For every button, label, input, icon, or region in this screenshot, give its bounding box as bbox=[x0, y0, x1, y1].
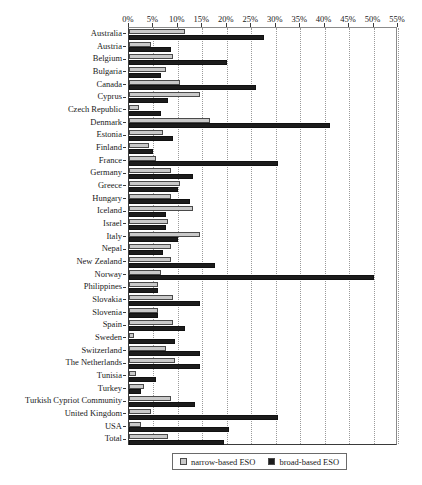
y-axis-tick-mark bbox=[123, 71, 126, 72]
bar-narrow-based-eso bbox=[129, 333, 134, 338]
bar-row bbox=[129, 395, 396, 408]
bar-narrow-based-eso bbox=[129, 346, 166, 351]
bar-row bbox=[129, 332, 396, 345]
y-axis-tick-mark bbox=[123, 46, 126, 47]
y-axis-tick-mark bbox=[123, 185, 126, 186]
bar-narrow-based-eso bbox=[129, 29, 185, 34]
bar-broad-based-eso bbox=[129, 187, 178, 192]
y-axis-label-nepal: Nepal bbox=[102, 243, 122, 253]
y-axis-label-new-zealand: New Zealand bbox=[76, 256, 122, 266]
bar-row bbox=[129, 243, 396, 256]
y-axis-label-bulgaria: Bulgaria bbox=[93, 66, 122, 76]
y-axis-tick-mark bbox=[123, 59, 126, 60]
bar-broad-based-eso bbox=[129, 339, 175, 344]
y-axis-tick-mark bbox=[123, 135, 126, 136]
y-axis-label-finland: Finland bbox=[96, 142, 122, 152]
bar-row bbox=[129, 180, 396, 193]
bar-row bbox=[129, 129, 396, 142]
bar-narrow-based-eso bbox=[129, 92, 200, 97]
y-axis-tick-mark bbox=[123, 363, 126, 364]
bar-row bbox=[129, 193, 396, 206]
gridline bbox=[398, 28, 399, 444]
y-axis-tick-mark bbox=[123, 147, 126, 148]
y-axis-tick-mark bbox=[123, 299, 126, 300]
y-axis-tick-mark bbox=[123, 274, 126, 275]
y-axis-tick-mark bbox=[123, 312, 126, 313]
y-axis-label-turkey: Turkey bbox=[98, 383, 122, 393]
bar-row bbox=[129, 231, 396, 244]
bar-broad-based-eso bbox=[129, 389, 141, 394]
bar-broad-based-eso bbox=[129, 98, 168, 103]
y-axis-tick-mark bbox=[123, 223, 126, 224]
y-axis-label-italy: Italy bbox=[106, 231, 122, 241]
x-axis-tick-mark bbox=[397, 23, 398, 27]
y-axis-label-hungary: Hungary bbox=[92, 193, 122, 203]
bar-row bbox=[129, 205, 396, 218]
bar-broad-based-eso bbox=[129, 73, 161, 78]
bar-row bbox=[129, 142, 396, 155]
bar-row bbox=[129, 383, 396, 396]
y-axis-label-iceland: Iceland bbox=[97, 205, 122, 215]
bar-broad-based-eso bbox=[129, 415, 278, 420]
y-axis-label-the-netherlands: The Netherlands bbox=[66, 357, 122, 367]
y-axis-label-tunisia: Tunisia bbox=[97, 370, 122, 380]
bar-row bbox=[129, 117, 396, 130]
y-axis-tick-mark bbox=[123, 211, 126, 212]
y-axis-label-belgium: Belgium bbox=[93, 53, 122, 63]
bar-row bbox=[129, 408, 396, 421]
bar-broad-based-eso bbox=[129, 313, 158, 318]
y-axis-tick-mark bbox=[123, 413, 126, 414]
bar-broad-based-eso bbox=[129, 275, 374, 280]
bar-narrow-based-eso bbox=[129, 308, 158, 313]
y-axis-label-canada: Canada bbox=[97, 79, 123, 89]
bar-narrow-based-eso bbox=[129, 396, 171, 401]
bar-narrow-based-eso bbox=[129, 358, 175, 363]
bar-broad-based-eso bbox=[129, 364, 200, 369]
bar-row bbox=[129, 28, 396, 41]
bar-broad-based-eso bbox=[129, 326, 185, 331]
bar-row bbox=[129, 66, 396, 79]
bar-narrow-based-eso bbox=[129, 130, 163, 135]
bar-narrow-based-eso bbox=[129, 54, 173, 59]
bar-broad-based-eso bbox=[129, 60, 227, 65]
y-axis-label-israel: Israel bbox=[103, 218, 122, 228]
y-axis-tick-mark bbox=[123, 109, 126, 110]
bar-narrow-based-eso bbox=[129, 67, 166, 72]
bar-row bbox=[129, 319, 396, 332]
bar-narrow-based-eso bbox=[129, 194, 171, 199]
plot-area bbox=[128, 27, 397, 445]
bar-row bbox=[129, 345, 396, 358]
bar-narrow-based-eso bbox=[129, 181, 180, 186]
bar-row bbox=[129, 41, 396, 54]
y-axis-tick-mark bbox=[123, 84, 126, 85]
y-axis-label-switzerland: Switzerland bbox=[81, 345, 122, 355]
y-axis-tick-mark bbox=[123, 249, 126, 250]
y-axis-label-france: France bbox=[99, 155, 122, 165]
bar-narrow-based-eso bbox=[129, 384, 144, 389]
y-axis-tick-mark bbox=[123, 350, 126, 351]
bar-chart: 0%5%10%15%20%25%30%35%40%45%50%55% Austr… bbox=[0, 0, 422, 485]
y-axis-label-usa: USA bbox=[105, 421, 122, 431]
bar-broad-based-eso bbox=[129, 250, 163, 255]
bar-narrow-based-eso bbox=[129, 434, 168, 439]
bar-broad-based-eso bbox=[129, 402, 195, 407]
bar-broad-based-eso bbox=[129, 47, 171, 52]
y-axis-tick-mark bbox=[123, 236, 126, 237]
y-axis-tick-mark bbox=[123, 198, 126, 199]
bar-row bbox=[129, 357, 396, 370]
bar-narrow-based-eso bbox=[129, 371, 136, 376]
y-axis-tick-mark bbox=[123, 287, 126, 288]
y-axis-label-total: Total bbox=[105, 433, 122, 443]
y-axis-tick-mark bbox=[123, 337, 126, 338]
bar-row bbox=[129, 53, 396, 66]
bar-broad-based-eso bbox=[129, 263, 215, 268]
bar-narrow-based-eso bbox=[129, 282, 158, 287]
bar-row bbox=[129, 104, 396, 117]
bar-broad-based-eso bbox=[129, 199, 190, 204]
y-axis-label-cyprus: Cyprus bbox=[97, 91, 122, 101]
y-axis-label-turkish-cypriot-community: Turkish Cypriot Community bbox=[25, 395, 122, 405]
bar-broad-based-eso bbox=[129, 174, 193, 179]
bar-broad-based-eso bbox=[129, 123, 330, 128]
bar-row bbox=[129, 167, 396, 180]
bar-narrow-based-eso bbox=[129, 244, 171, 249]
